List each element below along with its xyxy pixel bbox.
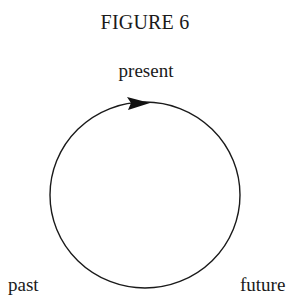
- label-future: future: [240, 275, 285, 294]
- cycle-diagram: [0, 0, 306, 303]
- time-cycle-circle: [50, 102, 240, 288]
- label-past: past: [8, 275, 39, 294]
